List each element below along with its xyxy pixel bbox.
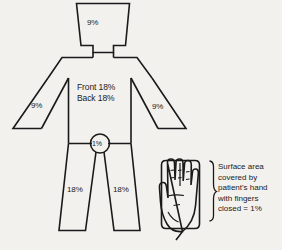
left-arm-percentage-label: 9% <box>31 102 42 110</box>
hand-surface-area-caption: Surface area covered by patient's hand w… <box>218 162 268 215</box>
left-arm-inner-line <box>42 78 69 129</box>
caption-brace <box>210 161 217 221</box>
right-arm-percentage-label: 9% <box>152 103 163 111</box>
right-leg-percentage-label: 18% <box>113 186 129 194</box>
caption-line-1: Surface area <box>218 162 268 173</box>
caption-line-3: patient's hand <box>218 183 268 194</box>
groin-percentage-label: 1% <box>92 140 102 147</box>
rule-of-nines-diagram: 9% Front 18% Back 18% 9% 9% 1% 18% 18% S… <box>0 0 282 250</box>
caption-line-2: covered by <box>218 173 268 184</box>
head-outline <box>77 4 130 53</box>
head-percentage-label: 9% <box>87 19 98 27</box>
caption-line-4: with fingers <box>218 194 268 205</box>
caption-line-5: closed = 1% <box>218 204 268 215</box>
torso-percentage-labels: Front 18% Back 18% <box>77 82 115 104</box>
torso-front-label: Front 18% <box>77 82 115 93</box>
torso-outline <box>48 58 152 79</box>
left-leg-percentage-label: 18% <box>67 186 83 194</box>
torso-back-label: Back 18% <box>77 93 115 104</box>
